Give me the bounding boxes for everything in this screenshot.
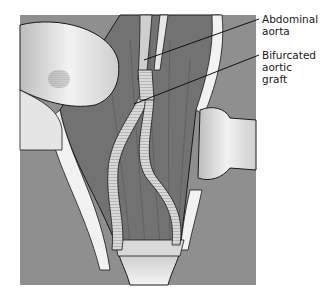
label-bifurcated-aortic-graft: Bifurcated aortic graft bbox=[262, 49, 320, 85]
label-abdominal-aorta: Abdominal aorta bbox=[262, 13, 318, 37]
graft-body bbox=[138, 70, 154, 100]
surgical-illustration bbox=[0, 0, 320, 296]
glove-texture bbox=[48, 70, 70, 88]
